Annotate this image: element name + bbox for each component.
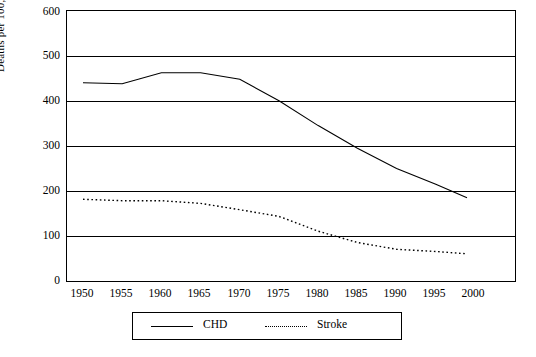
gridline-200 xyxy=(67,191,515,192)
legend-key-solid-icon xyxy=(151,326,193,327)
y-tick-label-200: 200 xyxy=(26,185,60,196)
y-tick-label-100: 100 xyxy=(26,230,60,241)
series-line-stroke xyxy=(83,199,467,254)
x-tick-label-1965: 1965 xyxy=(179,288,219,299)
y-tick-label-400: 400 xyxy=(26,95,60,106)
y-axis-title: Deaths per 100,000 Population xyxy=(0,0,6,72)
x-tick-label-1955: 1955 xyxy=(101,288,141,299)
x-tick-label-1960: 1960 xyxy=(140,288,180,299)
x-tick-label-1995: 1995 xyxy=(414,288,454,299)
y-tick-label-600: 600 xyxy=(26,6,60,17)
x-tick-label-1990: 1990 xyxy=(375,288,415,299)
series-line-chd xyxy=(83,73,467,198)
legend-key-dotted-icon xyxy=(265,326,307,327)
x-tick-label-1975: 1975 xyxy=(258,288,298,299)
plot-area xyxy=(66,10,516,282)
y-tick-label-500: 500 xyxy=(26,50,60,61)
gridline-400 xyxy=(67,101,515,102)
gridline-500 xyxy=(67,56,515,57)
y-tick-label-0: 0 xyxy=(26,275,60,286)
x-tick-label-1985: 1985 xyxy=(336,288,376,299)
legend-label-chd: CHD xyxy=(203,318,227,330)
x-tick-label-1980: 1980 xyxy=(297,288,337,299)
gridline-100 xyxy=(67,236,515,237)
legend-label-stroke: Stroke xyxy=(317,318,347,330)
x-tick-label-2000: 2000 xyxy=(453,288,493,299)
x-tick-label-1970: 1970 xyxy=(219,288,259,299)
gridline-300 xyxy=(67,146,515,147)
y-tick-label-300: 300 xyxy=(26,140,60,151)
x-tick-label-1950: 1950 xyxy=(62,288,102,299)
chart-page: Deaths per 100,000 Population 600 500 40… xyxy=(0,0,536,357)
legend: CHD Stroke xyxy=(132,312,402,340)
